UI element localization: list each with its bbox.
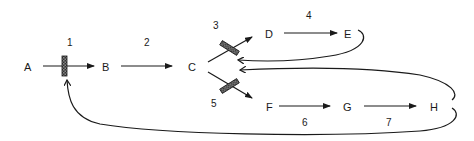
node-G: G (343, 101, 352, 113)
step-label-2: 2 (144, 37, 150, 48)
node-H: H (430, 101, 438, 113)
node-D: D (265, 28, 273, 40)
feedback-H-to-step-1 (67, 80, 456, 135)
step-label-1: 1 (67, 37, 73, 48)
step-label-4: 4 (306, 10, 312, 21)
node-B: B (102, 61, 109, 73)
step-label-3: 3 (213, 20, 219, 31)
node-C: C (188, 61, 196, 73)
node-F: F (266, 101, 273, 113)
step-label-5: 5 (211, 98, 217, 109)
inhibition-bar-step-1 (62, 56, 67, 76)
step-label-6: 6 (302, 117, 308, 128)
pathway-diagram: A B C D E F G H 1 2 3 4 5 6 7 (0, 0, 474, 141)
feedback-H-to-step-5 (240, 68, 455, 100)
node-E: E (344, 28, 351, 40)
step-label-7: 7 (386, 117, 392, 128)
node-A: A (24, 61, 32, 73)
